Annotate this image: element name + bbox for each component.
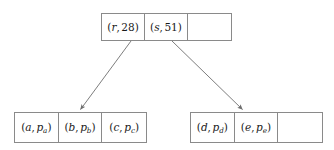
close-paren: ): [178, 21, 182, 33]
comma: ,: [208, 121, 211, 133]
right-leaf-cell-2-empty: [278, 113, 322, 142]
left-leaf-cell-0-key: a: [25, 121, 31, 133]
comma: ,: [32, 121, 35, 133]
left-leaf-node: (a,pa) (b,pb) (c,pc): [14, 112, 147, 143]
root-cell-2-empty: [188, 14, 231, 40]
comma: ,: [160, 21, 163, 33]
right-leaf-node: (d,pd) (e,pe): [190, 112, 323, 143]
left-leaf-cell-2-pointer: p: [124, 121, 131, 133]
close-paren: ): [224, 121, 228, 133]
left-leaf-cell-1-pointer: p: [80, 121, 87, 133]
right-leaf-cell-1-pointer: p: [256, 121, 263, 133]
left-leaf-cell-2: (c,pc): [102, 113, 146, 142]
close-paren: ): [267, 121, 271, 133]
right-leaf-cell-0: (d,pd): [191, 113, 235, 142]
root-to-left-leaf-arrow: [81, 41, 132, 110]
comma: ,: [251, 121, 254, 133]
root-to-right-leaf-arrow: [172, 41, 243, 110]
left-leaf-cell-0: (a,pa): [15, 113, 59, 142]
root-cell-0: (r,28): [102, 14, 145, 40]
root-cell-1: (s,51): [145, 14, 188, 40]
close-paren: ): [135, 21, 139, 33]
btree-index-diagram: (r,28) (s,51) (a,pa) (b,pb) (c,pc): [0, 0, 334, 150]
root-cell-1-value: 51: [164, 21, 177, 33]
root-cell-1-key: s: [154, 21, 159, 33]
left-leaf-cell-1: (b,pb): [59, 113, 103, 142]
comma: ,: [119, 121, 122, 133]
comma: ,: [116, 21, 119, 33]
close-paren: ): [47, 121, 51, 133]
right-leaf-cell-1: (e,pe): [235, 113, 279, 142]
right-leaf-cell-0-key: d: [201, 121, 208, 133]
comma: ,: [75, 121, 78, 133]
root-node: (r,28) (s,51): [101, 13, 232, 41]
close-paren: ): [91, 121, 95, 133]
root-cell-0-value: 28: [121, 21, 134, 33]
close-paren: ): [135, 121, 139, 133]
